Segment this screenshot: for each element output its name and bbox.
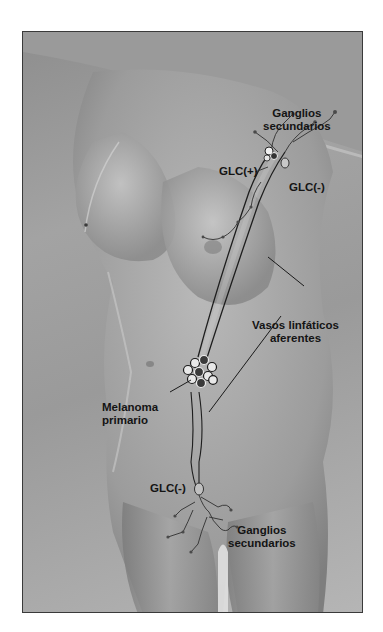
glc-positive-label: GLC(+) <box>219 165 258 178</box>
label-line: Ganglios <box>263 107 331 120</box>
glc-negative-axilla-label: GLC(-) <box>289 181 325 194</box>
glc-negative-groin-label: GLC(-) <box>150 482 186 495</box>
label-line: aferentes <box>252 332 339 345</box>
ganglios-secundarios-bottom-label: Ganglios secundarios <box>228 524 296 550</box>
label-text: GLC(+) <box>219 165 258 177</box>
label-line: primario <box>102 414 158 427</box>
melanoma-primario-label: Melanoma primario <box>102 401 158 427</box>
illustration-frame: Ganglios secundarios GLC(+) GLC(-) Vasos… <box>22 31 363 613</box>
glc-negative-axilla-node <box>281 158 289 168</box>
vasos-linfaticos-label: Vasos linfáticos aferentes <box>252 319 339 345</box>
label-text: GLC(-) <box>150 482 186 494</box>
label-line: Ganglios <box>228 524 296 537</box>
label-line: Melanoma <box>102 401 158 414</box>
ganglios-secundarios-top-label: Ganglios secundarios <box>263 107 331 133</box>
label-line: secundarios <box>263 120 331 133</box>
label-line: Vasos linfáticos <box>252 319 339 332</box>
label-line: secundarios <box>228 537 296 550</box>
label-text: GLC(-) <box>289 181 325 193</box>
glc-negative-groin-node <box>195 483 204 495</box>
